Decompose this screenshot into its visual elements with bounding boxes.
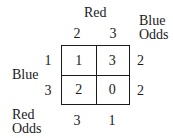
row-player-label: Blue <box>12 68 38 82</box>
payoff-cell: 2 <box>62 75 96 104</box>
blue-odds-value-2: 2 <box>137 84 144 98</box>
payoff-cell: 1 <box>62 46 96 75</box>
blue-odds-label-line2: Odds <box>139 28 169 42</box>
column-strategy-2: 3 <box>103 27 123 41</box>
payoff-cell: 3 <box>96 46 130 75</box>
payoff-cell: 0 <box>96 75 130 104</box>
red-odds-label-line1: Red <box>12 108 35 122</box>
row-strategy-1: 1 <box>38 54 58 68</box>
blue-odds-label-line1: Blue <box>139 14 165 28</box>
column-player-label: Red <box>84 6 107 20</box>
blue-odds-value-1: 2 <box>137 54 144 68</box>
row-strategy-2: 3 <box>38 84 58 98</box>
red-odds-label-line2: Odds <box>12 122 42 136</box>
column-strategy-1: 2 <box>67 27 87 41</box>
red-odds-value-2: 1 <box>102 114 122 128</box>
payoff-matrix: 1 3 2 0 <box>61 45 130 105</box>
red-odds-value-1: 3 <box>67 114 87 128</box>
